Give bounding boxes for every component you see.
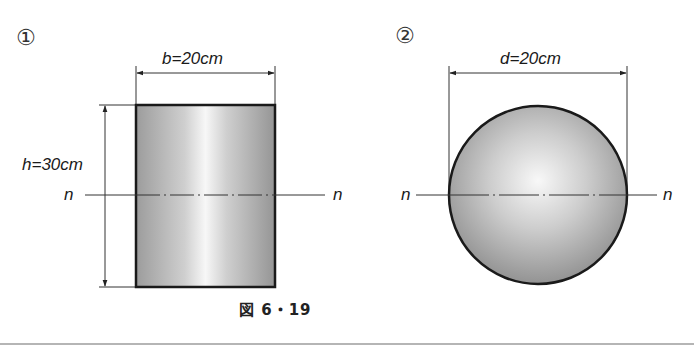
bottom-divider	[0, 343, 694, 345]
axis-label-n-right: n	[333, 186, 342, 203]
width-label: b=20cm	[162, 50, 223, 67]
figure-6-19: ① b=20cm h=30cm n n ② d=20cm n n 図 6・19	[0, 0, 694, 347]
panel-marker-2: ②	[395, 25, 415, 47]
diameter-label: d=20cm	[500, 50, 561, 67]
panel-circle	[416, 66, 657, 284]
figure-drawing	[0, 0, 694, 347]
axis-label-n-left: n	[401, 186, 410, 203]
panel-marker-1: ①	[16, 27, 36, 49]
axis-label-n-right: n	[663, 186, 672, 203]
panel-rectangle	[85, 66, 325, 287]
height-label: h=30cm	[22, 156, 83, 173]
figure-caption: 図 6・19	[239, 303, 312, 318]
axis-label-n-left: n	[64, 186, 73, 203]
rectangle-cross-section	[136, 105, 275, 287]
